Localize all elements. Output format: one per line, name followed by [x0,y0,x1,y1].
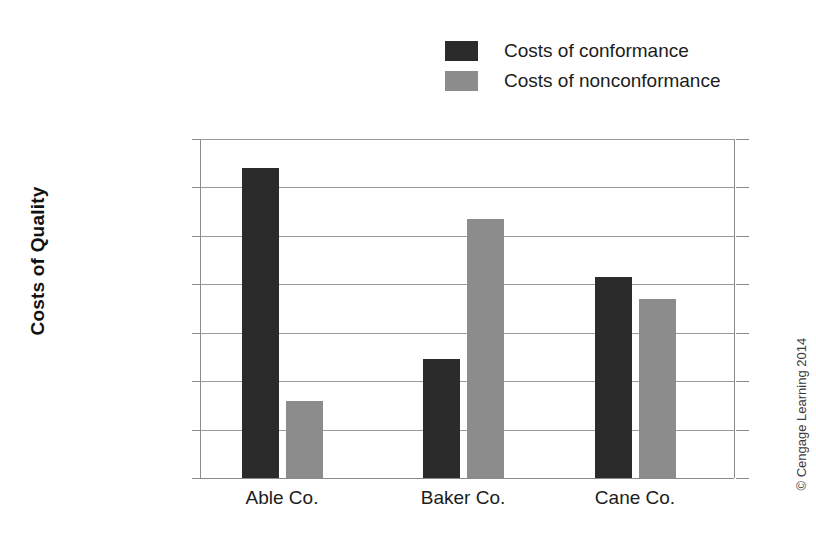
legend-item-conformance: Costs of conformance [445,36,765,66]
y-axis-tick-mark [192,333,201,334]
x-axis-label-able-co: Able Co. [192,487,372,509]
gridline [201,139,734,140]
chart-legend: Costs of conformance Costs of nonconform… [445,36,765,96]
bar-baker-co-conformance [423,359,460,478]
legend-swatch-nonconformance [445,71,478,91]
y-axis-tick-mark-right [736,381,749,382]
bar-cane-co-nonconformance [639,299,676,478]
y-axis-tick-mark-right [736,430,749,431]
y-axis-tick-mark [192,139,201,140]
x-axis-label-cane-co: Cane Co. [545,487,725,509]
y-axis-tick-mark [192,187,201,188]
y-axis-tick-mark-right [736,284,749,285]
legend-label-conformance: Costs of conformance [504,41,689,61]
chart-figure: Costs of conformance Costs of nonconform… [0,0,816,543]
y-axis-tick-mark-right [736,478,749,479]
plot-area: $1,400,0001,200,0001,000,000800,000600,0… [200,139,735,478]
y-axis-title: Costs of Quality [27,161,49,361]
y-axis-tick-mark-right [736,333,749,334]
bar-able-co-nonconformance [286,401,323,478]
legend-item-nonconformance: Costs of nonconformance [445,66,765,96]
x-axis-label-baker-co: Baker Co. [373,487,553,509]
legend-label-nonconformance: Costs of nonconformance [504,71,721,91]
y-axis-tick-mark [192,430,201,431]
y-axis-tick-mark [192,284,201,285]
legend-swatch-conformance [445,41,478,61]
bar-baker-co-nonconformance [467,219,504,478]
copyright-credit: © Cengage Learning 2014 [794,301,809,491]
y-axis-tick-mark-right [736,187,749,188]
y-axis-tick-mark [192,381,201,382]
gridline [201,478,734,479]
y-axis-tick-mark [192,478,201,479]
gridline [201,187,734,188]
y-axis-tick-mark [192,236,201,237]
bar-able-co-conformance [242,168,279,478]
y-axis-tick-mark-right [736,236,749,237]
bar-cane-co-conformance [595,277,632,478]
y-axis-tick-mark-right [736,139,749,140]
